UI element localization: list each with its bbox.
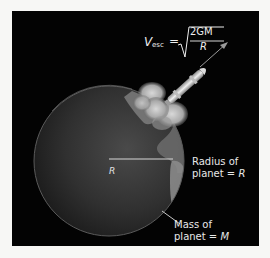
escape-velocity-figure: V esc = 2GM R R Radius of planet = R Mas…	[0, 0, 270, 258]
radius-label-line2: planet = R	[192, 168, 245, 180]
diagram-panel: V esc = 2GM R R Radius of planet = R Mas…	[12, 11, 259, 246]
radius-label-symbol: R	[238, 168, 245, 179]
mass-annotation: Mass of planet = M	[174, 219, 229, 243]
mass-label-symbol: M	[220, 231, 229, 242]
radius-symbol-label: R	[109, 166, 115, 176]
mass-label-prefix: planet =	[174, 231, 220, 242]
radius-label-line1: Radius of	[192, 156, 245, 168]
mass-label-line1: Mass of	[174, 219, 229, 231]
rocket-icon	[163, 65, 209, 108]
mass-label-line2: planet = M	[174, 231, 229, 243]
radius-label-prefix: planet =	[192, 168, 238, 179]
formula-denominator: R	[200, 41, 207, 52]
formula-subscript: esc	[152, 41, 164, 49]
formula-numerator: 2GM	[190, 26, 213, 37]
formula-velocity-symbol: V	[144, 35, 152, 49]
radius-annotation: Radius of planet = R	[192, 156, 245, 180]
